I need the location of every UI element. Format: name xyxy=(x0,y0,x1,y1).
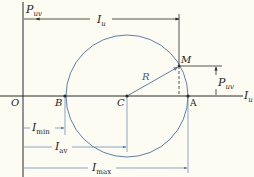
point-a-label: A xyxy=(189,98,197,108)
point-b-label: B xyxy=(54,97,62,108)
origin-label: O xyxy=(11,97,19,108)
puv-dimension-label: Puv xyxy=(217,76,234,91)
point-m-label: M xyxy=(180,54,192,65)
point-m xyxy=(178,65,181,68)
top-iu-label: Iu xyxy=(96,13,106,28)
radius-label: R xyxy=(141,71,150,82)
horizontal-axis-label: Iu xyxy=(243,89,253,104)
iav-label: Iav xyxy=(54,140,68,155)
circle-diagram: Puv Iu M Puv R Iu O B C A Imin Iav Imax xyxy=(0,0,254,177)
point-c xyxy=(125,94,128,97)
radius-line xyxy=(127,67,178,96)
point-b xyxy=(63,94,66,97)
imin-label: Imin xyxy=(31,121,50,136)
vertical-axis-label: Puv xyxy=(25,3,42,18)
imax-label: Imax xyxy=(91,161,111,176)
point-c-label: C xyxy=(117,97,125,108)
